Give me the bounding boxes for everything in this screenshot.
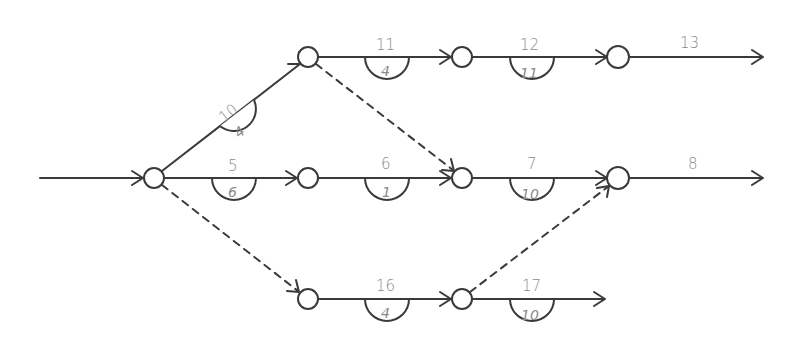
edge-activity-6: 6 1	[318, 155, 451, 200]
edge-dummy-n0-b1	[162, 185, 299, 292]
activity-label: 6	[381, 155, 391, 173]
node-mid-1	[298, 168, 318, 188]
duration-label: 10	[521, 307, 539, 323]
node-top-3	[607, 46, 629, 68]
activity-label: 8	[688, 155, 698, 173]
duration-label: 11	[520, 65, 538, 81]
duration-label: 4	[381, 305, 390, 321]
activity-label: 16	[376, 277, 395, 295]
node-top-2	[452, 47, 472, 67]
edge-activity-11: 11 4	[318, 36, 451, 79]
activity-network-diagram: 10 4 5 6 11 4 12 11 13	[0, 0, 797, 344]
edge-activity-12: 12 11	[472, 36, 607, 81]
activity-label: 7	[527, 155, 537, 173]
duration-label: 1	[382, 184, 391, 200]
edge-activity-5: 5 6	[164, 157, 297, 200]
activity-label: 17	[522, 277, 541, 295]
duration-label: 10	[521, 186, 539, 202]
activity-label: 12	[520, 36, 539, 54]
edge-activity-16: 16 4	[318, 277, 451, 321]
activity-label: 13	[680, 34, 699, 52]
edge-activity-17: 17 10	[472, 277, 605, 323]
node-mid-3	[607, 167, 629, 189]
edge-activity-7: 7 10	[472, 155, 607, 202]
duration-label: 6	[228, 184, 237, 200]
node-top-1	[298, 47, 318, 67]
node-bottom-2	[452, 289, 472, 309]
node-mid-2	[452, 168, 472, 188]
edge-activity-13: 13	[628, 34, 763, 64]
edge-activity-8: 8	[628, 155, 763, 185]
edge-incoming	[40, 171, 143, 185]
node-bottom-1	[298, 289, 318, 309]
activity-label: 11	[376, 36, 395, 54]
activity-label: 5	[228, 157, 238, 175]
node-start	[144, 168, 164, 188]
duration-label: 4	[381, 63, 390, 79]
edge-activity-10: 10 4	[162, 52, 300, 171]
